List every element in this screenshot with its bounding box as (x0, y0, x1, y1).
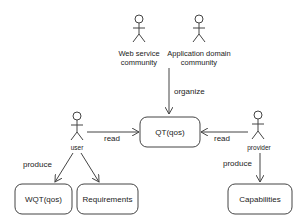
actor-provider (252, 111, 264, 139)
diagram-canvas: Web service community Application domain… (0, 0, 305, 224)
actor-user (71, 112, 83, 140)
box-label: WQT(qos) (25, 195, 62, 204)
actor-web-service-community (133, 15, 145, 42)
actor-label: Web service (118, 49, 159, 58)
actor-label: provider (247, 144, 271, 152)
edge-label-read: read (214, 134, 230, 143)
actor-head-icon (135, 15, 143, 23)
produce-arrow-wqt (55, 153, 73, 182)
box-label: Requirements (83, 195, 133, 204)
actor-label: community (181, 58, 218, 67)
actor-head-icon (195, 15, 203, 23)
actor-head-icon (73, 112, 81, 120)
edge-label-read: read (104, 134, 120, 143)
actor-label: community (121, 58, 158, 67)
box-label: Capabilities (239, 195, 280, 204)
actor-application-domain-community (193, 15, 205, 42)
produce-arrow-requirements (81, 153, 99, 182)
actor-label: user (71, 144, 84, 151)
edge-label-organize: organize (174, 87, 205, 96)
box-label: QT(qos) (155, 128, 185, 137)
actor-label: Application domain (167, 49, 230, 58)
edge-label-produce: produce (23, 160, 52, 169)
actor-head-icon (254, 111, 262, 119)
edge-label-produce: produce (223, 159, 252, 168)
